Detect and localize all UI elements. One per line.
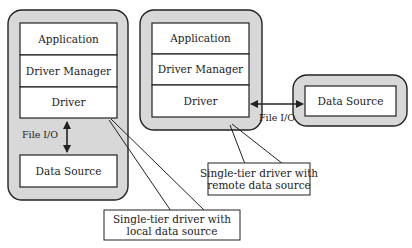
remote-file-io-label: File I/O: [259, 112, 295, 123]
odbc-single-tier-diagram: Application Driver Manager Driver File I…: [0, 0, 412, 248]
callout-remote-line2: remote data source: [207, 179, 311, 191]
remote-data-source-group: Data Source: [293, 75, 407, 126]
remote-driver-label: Driver: [184, 95, 219, 107]
remote-config: Application Driver Manager Driver: [140, 10, 262, 130]
local-file-io-label: File I/O: [22, 129, 58, 140]
local-driver-manager-label: Driver Manager: [26, 65, 112, 77]
remote-application-label: Application: [169, 32, 231, 44]
local-driver-label: Driver: [52, 96, 87, 108]
callout-local-line1: Single-tier driver with: [113, 213, 231, 225]
callout-remote-pointer-left: [230, 125, 245, 164]
local-config: Application Driver Manager Driver File I…: [8, 10, 128, 200]
callout-local-line2: local data source: [127, 225, 218, 237]
callout-remote-pointer-right: [232, 124, 283, 164]
local-application-label: Application: [37, 33, 99, 45]
callout-remote-line1: Single-tier driver with: [200, 167, 318, 179]
local-data-source-label: Data Source: [36, 165, 102, 177]
remote-data-source-label: Data Source: [318, 95, 384, 107]
remote-driver-manager-label: Driver Manager: [158, 63, 244, 75]
callout-remote: Single-tier driver with remote data sour…: [200, 124, 318, 195]
